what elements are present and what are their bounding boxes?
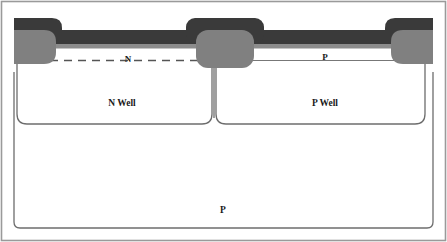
substrate-label: P — [220, 205, 226, 215]
cmos-cross-section-diagram: N P N Well P Well P — [0, 0, 447, 242]
diagram-canvas: N P N Well P Well P — [0, 0, 447, 242]
n-diffusion-label: N — [125, 54, 132, 64]
p-well-outline — [216, 62, 425, 124]
p-diffusion-label: P — [322, 52, 328, 62]
contact-right — [391, 30, 433, 64]
n-well-label: N Well — [108, 98, 136, 108]
p-well-label: P Well — [312, 98, 338, 108]
n-well-outline — [17, 62, 212, 124]
contact-middle — [196, 30, 254, 68]
contact-left — [14, 30, 56, 64]
